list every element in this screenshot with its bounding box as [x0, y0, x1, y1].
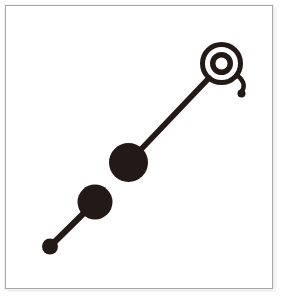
middle-disc: [109, 143, 148, 182]
figure-canvas: Ink diagram of linked discs and bullseye: [0, 0, 281, 297]
bullseye-core: [216, 58, 227, 69]
figure-root: Ink diagram of linked discs and bullseye: [0, 0, 281, 297]
lower-disc: [78, 185, 113, 220]
small-dot: [42, 239, 58, 255]
lower-connector-line: [50, 209, 88, 247]
tail-end-dot: [238, 90, 246, 98]
bullseye-group: [203, 45, 241, 83]
